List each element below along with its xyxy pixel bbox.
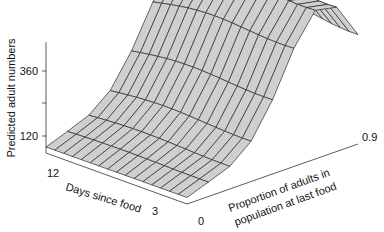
z-tick-label-120: 120 xyxy=(20,130,38,142)
y-tick-label-0: 0 xyxy=(198,215,204,227)
surface-chart: 360 120 Predicted adult numbers 12 3 Day… xyxy=(0,0,384,232)
z-tick-label-360: 360 xyxy=(20,65,38,77)
x-tick-label-3: 3 xyxy=(152,205,158,217)
z-axis-label: Predicted adult numbers xyxy=(5,38,17,158)
x-axis-label: Days since food xyxy=(64,180,142,214)
x-tick-label-12: 12 xyxy=(47,167,59,179)
surface-mesh xyxy=(46,0,358,198)
y-tick-label-0.9: 0.9 xyxy=(362,131,377,143)
